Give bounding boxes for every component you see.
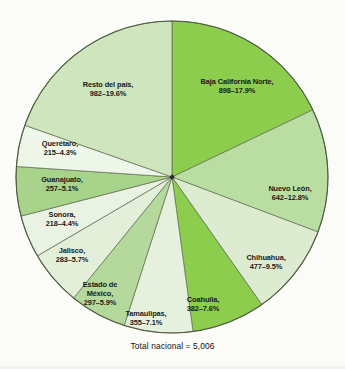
total-caption: Total nacional = 5,006 xyxy=(0,341,345,351)
pie-chart-svg xyxy=(0,0,345,369)
pie-chart-figure: Baja California Norte,898–17.9%Nuevo Leó… xyxy=(0,0,345,369)
